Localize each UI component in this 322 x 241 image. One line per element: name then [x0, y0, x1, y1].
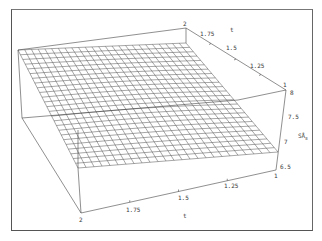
front-axis-tick-1.5: 1.5 — [178, 194, 189, 201]
z-axis-tick-7: 7 — [284, 138, 288, 145]
z-axis-tick-8: 8 — [290, 89, 294, 96]
back-axis-title: t — [230, 26, 234, 33]
bounding-box — [18, 28, 286, 118]
back-axis-tick-1.25: 1.25 — [250, 62, 265, 69]
front-axis-tick-2: 2 — [79, 216, 83, 223]
surface-mesh — [18, 43, 278, 168]
z-axis-tick-6.5: 6.5 — [280, 163, 291, 170]
bounding-box-front-edges — [22, 90, 286, 213]
z-axis-tick-7.5: 7.5 — [288, 113, 299, 120]
front-axis-title: t — [183, 212, 187, 219]
back-axis-tick-1.5: 1.5 — [226, 44, 237, 51]
front-axis-tick-1.75: 1.75 — [126, 206, 141, 213]
z-axis-title: SÅ8 — [298, 132, 308, 141]
back-axis-tick-1.75: 1.75 — [200, 30, 215, 37]
front-axis-tick-1: 1 — [274, 172, 278, 179]
front-axis-tick-1.25: 1.25 — [224, 182, 239, 189]
surface-plot-3d: 2 1.75 1.5 1.25 1 t 8 7.5 7 6.5 SÅ8 2 1.… — [0, 0, 322, 241]
back-axis-tick-1: 1 — [283, 81, 287, 88]
back-axis-tick-2: 2 — [183, 20, 187, 27]
